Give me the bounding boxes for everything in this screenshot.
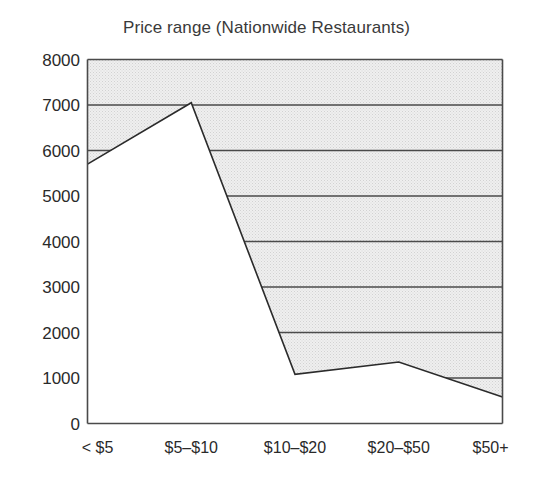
x-tick-label: $50+ [472, 440, 508, 456]
x-tick-label: $5–$10 [165, 440, 218, 456]
plot-area [0, 0, 533, 489]
chart-figure: Price range (Nationwide Restaurants) 010… [0, 0, 533, 489]
area-fill-above-line [88, 60, 503, 398]
x-tick-label: $20–$50 [368, 440, 430, 456]
x-tick-label: $10–$20 [264, 440, 326, 456]
x-tick-label: < $5 [82, 440, 114, 456]
